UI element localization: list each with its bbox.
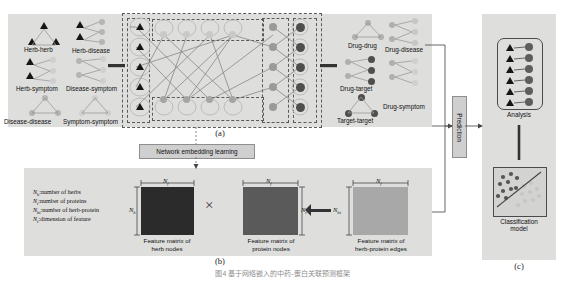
node-drug-circle bbox=[345, 73, 351, 79]
central-disease-node bbox=[183, 31, 190, 38]
central-drug-node bbox=[269, 103, 277, 111]
node-target-circle bbox=[371, 110, 378, 117]
node-target-circle bbox=[358, 94, 365, 101]
classification-model-label: Classificationmodel bbox=[490, 218, 548, 233]
node-disease-circle bbox=[76, 72, 82, 78]
central-disease-node bbox=[206, 31, 213, 38]
analysis-herb-triangle bbox=[506, 44, 514, 51]
network-embedding-learning-label: Network embedding learning bbox=[156, 148, 237, 155]
node-symptom-circle bbox=[79, 110, 85, 116]
node-disease-circle bbox=[99, 29, 105, 35]
analysis-box bbox=[497, 38, 543, 110]
central-drug-node bbox=[269, 83, 277, 91]
node-drug-circle bbox=[389, 60, 395, 66]
analysis-target-circle bbox=[525, 98, 533, 106]
node-herb-triangle bbox=[28, 38, 36, 45]
node-symptom-circle bbox=[412, 58, 418, 64]
dim-label-nf-1: Nf bbox=[163, 177, 169, 186]
central-drug-node bbox=[269, 63, 277, 71]
node-herb-triangle bbox=[26, 72, 34, 79]
node-symptom-circle bbox=[92, 95, 98, 101]
central-disease-node bbox=[160, 31, 167, 38]
central-drug-node bbox=[269, 43, 277, 51]
node-disease-circle bbox=[29, 110, 35, 116]
label-drug-drug: Drug-drug bbox=[348, 43, 377, 50]
node-target-circle bbox=[368, 56, 375, 63]
node-disease-circle bbox=[99, 39, 105, 45]
figure-bottom-caption: 图4 基于网络嵌入的中药-蛋白关联预测框架 bbox=[0, 268, 565, 278]
label-herb-disease: Herb-disease bbox=[72, 48, 110, 55]
node-drug-circle bbox=[389, 74, 395, 80]
analysis-herb-triangle bbox=[506, 77, 514, 84]
node-target-circle bbox=[368, 67, 375, 74]
label-symptom-symptom: Symptom-symptom bbox=[63, 119, 118, 126]
central-herb-triangle bbox=[136, 103, 144, 110]
analysis-herb-triangle bbox=[506, 55, 514, 62]
central-symptom-node bbox=[229, 96, 236, 103]
central-target-node bbox=[296, 103, 305, 112]
analysis-herb-triangle bbox=[506, 99, 514, 106]
prediction-label: Prediction bbox=[456, 113, 463, 141]
central-herb-triangle bbox=[136, 63, 144, 70]
central-symptom-node bbox=[160, 96, 167, 103]
node-disease-circle bbox=[412, 29, 418, 35]
panel-b-letter: (b) bbox=[200, 256, 240, 266]
group-box-whole-network bbox=[122, 13, 322, 128]
node-target-circle bbox=[345, 110, 352, 117]
caption-herb-matrix: Feature matrix ofherb nodes bbox=[131, 237, 203, 253]
network-embedding-learning-box: Network embedding learning bbox=[139, 144, 255, 159]
node-disease-circle bbox=[76, 58, 82, 64]
node-drug-circle bbox=[389, 36, 395, 42]
label-herb-herb: Herb-herb bbox=[24, 47, 53, 54]
label-drug-symptom: Drug-symptom bbox=[383, 104, 425, 111]
node-target-circle bbox=[368, 78, 375, 85]
analysis-target-circle bbox=[525, 76, 533, 84]
label-disease-symptom: Disease-symptom bbox=[66, 86, 117, 93]
node-symptom-circle bbox=[50, 57, 56, 63]
caption-protein-matrix: Feature matrix ofprotein nodes bbox=[233, 237, 309, 253]
node-drug-circle bbox=[365, 20, 371, 26]
caption-edge-matrix: Feature matrix ofherb-protein edges bbox=[340, 237, 422, 253]
classification-model-box bbox=[493, 167, 547, 217]
node-symptom-circle bbox=[50, 78, 56, 84]
node-herb-triangle bbox=[76, 21, 84, 28]
node-disease-circle bbox=[412, 18, 418, 24]
panel-a-letter: (a) bbox=[200, 128, 240, 138]
node-herb-triangle bbox=[26, 58, 34, 65]
label-disease-disease: Disease-disease bbox=[4, 119, 51, 126]
analysis-herb-triangle bbox=[506, 88, 514, 95]
analysis-target-circle bbox=[525, 54, 533, 62]
label-drug-target: Drug-target bbox=[340, 86, 372, 93]
feature-matrix-herb-protein-edges bbox=[353, 187, 408, 235]
node-drug-circle bbox=[378, 34, 384, 40]
central-target-node bbox=[296, 83, 305, 92]
analysis-herb-triangle bbox=[506, 66, 514, 73]
feature-matrix-protein-nodes bbox=[243, 187, 298, 235]
node-drug-circle bbox=[345, 59, 351, 65]
central-target-node bbox=[296, 63, 305, 72]
node-herb-triangle bbox=[52, 38, 60, 45]
central-drug-node bbox=[269, 23, 277, 31]
node-disease-circle bbox=[99, 19, 105, 25]
node-symptom-circle bbox=[100, 56, 106, 62]
node-symptom-circle bbox=[100, 78, 106, 84]
node-disease-circle bbox=[42, 95, 48, 101]
feature-matrix-herb-nodes bbox=[141, 187, 194, 235]
node-herb-triangle bbox=[40, 22, 48, 29]
central-target-node bbox=[296, 43, 305, 52]
analysis-target-circle bbox=[525, 43, 533, 51]
label-drug-disease: Drug-disease bbox=[385, 47, 423, 54]
central-herb-triangle bbox=[136, 43, 144, 50]
analysis-target-circle bbox=[525, 65, 533, 73]
node-symptom-circle bbox=[100, 67, 106, 73]
legend-n-proteins: Nt:number of proteins bbox=[33, 198, 86, 206]
label-herb-symptom: Herb-symptom bbox=[16, 86, 58, 93]
node-drug-circle bbox=[389, 22, 395, 28]
dim-label-nf-2: Nf bbox=[266, 177, 272, 186]
dim-label-nht: Nht bbox=[333, 206, 341, 215]
dim-label-nt: Nt bbox=[301, 206, 307, 215]
node-symptom-circle bbox=[50, 68, 56, 74]
prediction-box: Prediction bbox=[452, 96, 467, 158]
node-disease-circle bbox=[55, 110, 61, 116]
node-symptom-circle bbox=[412, 69, 418, 75]
